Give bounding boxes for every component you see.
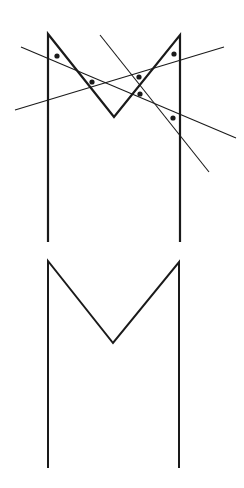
lower-m-shape xyxy=(48,261,179,468)
transversal-line-2 xyxy=(15,47,224,110)
angle-dot-5 xyxy=(171,51,176,56)
angle-dot-6 xyxy=(170,115,175,120)
diagram-canvas xyxy=(0,0,244,488)
angle-dot-2 xyxy=(89,79,94,84)
upper-m-figure-with-transversals xyxy=(15,34,236,242)
upper-m-shape xyxy=(48,34,180,242)
transversal-line-1 xyxy=(21,47,236,138)
angle-dot-3 xyxy=(136,74,141,79)
transversal-line-3 xyxy=(100,35,209,172)
lower-m-figure xyxy=(48,261,179,468)
angle-dot-1 xyxy=(54,53,59,58)
angle-dot-4 xyxy=(137,91,142,96)
